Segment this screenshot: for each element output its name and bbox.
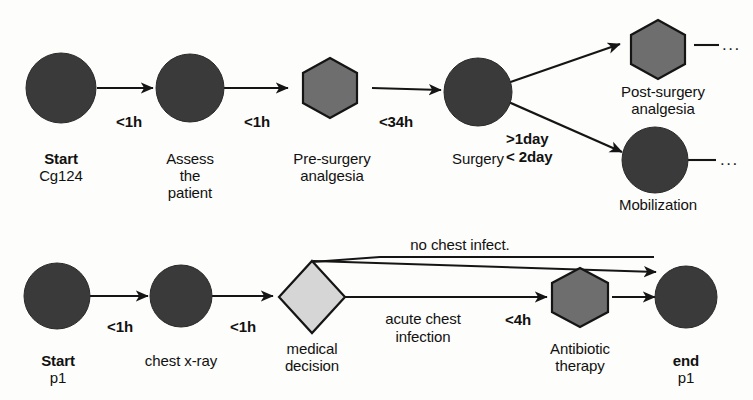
continuation-ellipsis-mobilization: ... — [720, 150, 739, 170]
edge-label-xray-to-decision: <1h — [208, 318, 278, 335]
node-label-assess-patient-line2: the — [130, 167, 250, 184]
node-pre-surgery-analgesia — [303, 58, 357, 118]
node-label-end-p1-sub: p1 — [632, 369, 740, 386]
node-label-post-surgery-analgesia-line1: Post-surgery — [588, 83, 738, 100]
node-end-p1 — [655, 266, 717, 328]
node-post-surgery-analgesia — [631, 20, 685, 79]
node-mobilization — [622, 127, 688, 193]
node-label-start-p1-title: Start — [0, 352, 118, 369]
diagram-canvas: Start Cg124 Assess the patient Pre-surge… — [0, 0, 753, 400]
edge-label-no-chest-infection: no chest infect. — [372, 236, 548, 253]
edge-label-startp1-to-xray: <1h — [85, 318, 155, 335]
node-start-cg124 — [26, 53, 96, 123]
node-chest-xray — [150, 265, 212, 327]
node-label-post-surgery-analgesia-line2: analgesia — [588, 100, 738, 117]
node-label-antibiotic-therapy-line2: therapy — [520, 357, 640, 374]
node-start-p1 — [24, 263, 90, 329]
node-label-pre-surgery-analgesia-line1: Pre-surgery — [262, 150, 402, 167]
node-medical-decision — [279, 261, 345, 333]
edge-label-antibiotic-time: <4h — [488, 311, 548, 328]
node-surgery — [444, 58, 512, 126]
node-label-medical-decision-line1: medical — [252, 340, 372, 357]
node-label-pre-surgery-analgesia-line2: analgesia — [262, 167, 402, 184]
node-assess-patient — [156, 54, 224, 122]
node-label-chest-xray: chest x-ray — [121, 352, 241, 369]
edge-label-surgery-to-mobilization-line2: < 2day — [506, 148, 586, 165]
edge-decision-no-chest-infection-arrow — [313, 261, 656, 272]
node-label-start-p1-sub: p1 — [0, 369, 118, 386]
node-label-mobilization: Mobilization — [583, 196, 733, 213]
edge-label-acute-chest-infection-line1: acute chest — [358, 310, 488, 327]
edge-label-surgery-to-mobilization-line1: >1day — [506, 130, 586, 147]
node-label-assess-patient-line3: patient — [130, 184, 250, 201]
edge-decision-no-chest-infection — [312, 257, 654, 271]
node-label-assess-patient-line1: Assess — [130, 150, 250, 167]
node-label-medical-decision-line2: decision — [252, 357, 372, 374]
edge-presurgery-to-surgery — [372, 88, 441, 90]
edge-label-acute-chest-infection-line2: infection — [358, 328, 488, 345]
edge-label-assess-to-presurgery: <1h — [222, 113, 292, 130]
continuation-ellipsis-post-surgery: ... — [722, 35, 741, 55]
node-label-end-p1-title: end — [632, 352, 740, 369]
node-label-antibiotic-therapy-line1: Antibiotic — [520, 340, 640, 357]
edge-label-presurgery-to-surgery: <34h — [358, 113, 434, 130]
node-label-start-cg124-title: Start — [0, 150, 122, 167]
edge-label-start-to-assess: <1h — [94, 113, 164, 130]
node-label-start-cg124-sub: Cg124 — [0, 167, 122, 184]
node-antibiotic-therapy — [552, 268, 608, 327]
edge-surgery-to-postsurgery — [505, 44, 620, 84]
